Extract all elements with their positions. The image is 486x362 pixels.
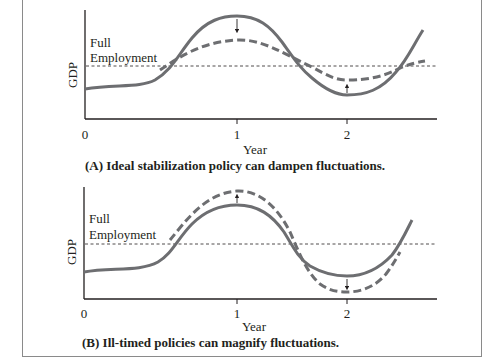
panel-a-gdp-curve-dashed xyxy=(160,40,425,80)
panel-b-tick-label-1: 1 xyxy=(234,306,241,321)
panel-a-x-axis-title: Year xyxy=(243,142,268,157)
panel-a-employment-label: Employment xyxy=(90,50,158,65)
panel-b-employment-label: Employment xyxy=(89,227,157,242)
panel-b-x-axis-title: Year xyxy=(242,319,267,334)
panel-b-caption: (B) Ill-timed policies can magnify fluct… xyxy=(82,335,339,350)
panel-b-gdp-curve-dashed xyxy=(170,191,400,292)
panel-a-tick-label-0: 0 xyxy=(82,127,89,142)
panel-b-tick-label-0: 0 xyxy=(81,306,88,321)
panel-b-y-axis-title: GDP xyxy=(64,239,79,265)
panel-a: GDP Full Employment 0 1 2 Year (A) Ideal… xyxy=(65,10,437,173)
panel-a-tick-label-2: 2 xyxy=(344,127,351,142)
panel-a-caption: (A) Ideal stabilization policy can dampe… xyxy=(85,158,385,173)
panel-b-tick-label-2: 2 xyxy=(344,306,351,321)
panel-b-full-label: Full xyxy=(89,211,110,226)
figure-svg: GDP Full Employment 0 1 2 Year (A) Ideal… xyxy=(0,0,486,362)
panel-b: GDP Full Employment 0 1 2 Year (B) Ill-t… xyxy=(64,187,437,350)
panel-a-tick-label-1: 1 xyxy=(234,127,241,142)
panel-a-y-axis-title: GDP xyxy=(65,62,80,88)
panel-a-full-label: Full xyxy=(90,35,111,50)
